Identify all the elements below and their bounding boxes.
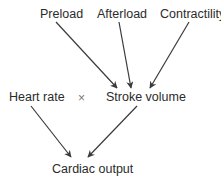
node-preload: Preload — [40, 8, 83, 21]
arrow-preload-to-stroke-volume — [56, 22, 117, 88]
node-afterload: Afterload — [97, 8, 147, 21]
diagram-canvas: Preload Afterload Contractility Heart ra… — [0, 0, 221, 182]
node-cardiac-output: Cardiac output — [52, 163, 133, 176]
node-stroke-volume: Stroke volume — [106, 91, 186, 104]
multiply-operator: × — [78, 92, 85, 104]
arrow-afterload-to-stroke-volume — [119, 22, 131, 88]
node-heart-rate: Heart rate — [9, 91, 65, 104]
arrow-contractility-to-stroke-volume — [150, 22, 189, 88]
arrow-stroke-volume-to-cardiac-output — [88, 106, 137, 157]
node-contractility: Contractility — [160, 8, 221, 21]
arrow-heart-rate-to-cardiac-output — [31, 106, 71, 157]
